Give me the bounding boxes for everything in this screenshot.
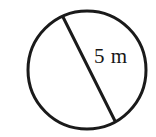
geometry-figure-canvas: 5 m [0,0,156,137]
circle-outline [28,11,146,129]
circle-diagram-svg [0,0,156,137]
diameter-measurement-label: 5 m [94,46,128,67]
